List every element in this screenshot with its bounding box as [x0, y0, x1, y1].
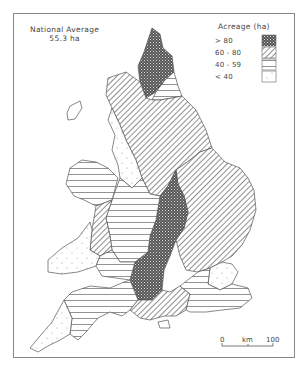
region-isle-of-man — [67, 101, 82, 120]
legend-swatch-lt40 — [262, 71, 276, 82]
legend-swatches — [262, 35, 276, 82]
region-north-wales — [66, 160, 118, 206]
scale-start: 0 — [220, 336, 224, 344]
region-east-anglia — [176, 148, 256, 272]
legend-swatch-40-59 — [262, 59, 276, 70]
region-devon-somerset — [64, 280, 138, 340]
legend-swatch-gt80 — [262, 35, 276, 46]
scale-end: 100 — [266, 336, 279, 344]
england-wales-map — [0, 0, 306, 372]
region-isle-of-wight — [158, 320, 170, 328]
scale-unit: km — [242, 336, 253, 344]
legend-swatch-60-80 — [262, 47, 276, 58]
region-cornwall — [30, 300, 72, 352]
